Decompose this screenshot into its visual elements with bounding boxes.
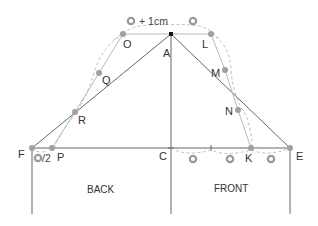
label-P: P (57, 151, 64, 163)
label-O: O (123, 38, 132, 50)
point-L (208, 31, 214, 37)
top-note: + 1cm (139, 15, 168, 27)
structure-lines (32, 34, 290, 214)
pattern-diagram: + 1cm /2 A O L Q M R N F P C K E BACK FR… (0, 0, 318, 226)
ring-icon (190, 18, 196, 24)
label-N: N (225, 105, 233, 117)
point-F (29, 145, 35, 151)
point-E (287, 145, 293, 151)
point-A-apex (169, 32, 173, 36)
hem-curve-front (171, 148, 290, 154)
points (29, 31, 293, 151)
half-note: /2 (42, 152, 51, 164)
point-N (235, 107, 241, 113)
ring-icon (227, 156, 233, 162)
label-Q: Q (102, 74, 111, 86)
label-C: C (159, 150, 167, 162)
point-M (222, 67, 228, 73)
measure-symbols (35, 18, 274, 162)
region-front: FRONT (214, 183, 248, 194)
ring-icon (268, 156, 274, 162)
ring-icon (128, 18, 134, 24)
label-L: L (202, 38, 208, 50)
guide-lines (52, 34, 251, 148)
point-P (49, 145, 55, 151)
ring-icon (190, 156, 196, 162)
label-E: E (296, 150, 303, 162)
label-F: F (18, 148, 25, 160)
line-A-E (171, 34, 290, 148)
region-back: BACK (87, 184, 115, 195)
line-A-F (32, 34, 171, 148)
label-R: R (78, 114, 86, 126)
point-O (120, 31, 126, 37)
dashed-curves (32, 25, 290, 154)
label-A: A (163, 47, 171, 59)
label-K: K (245, 152, 253, 164)
back-shoulder-guide (52, 34, 171, 148)
label-M: M (211, 67, 220, 79)
point-K (248, 145, 254, 151)
front-shoulder-guide (171, 34, 251, 148)
ring-icon (35, 155, 41, 161)
